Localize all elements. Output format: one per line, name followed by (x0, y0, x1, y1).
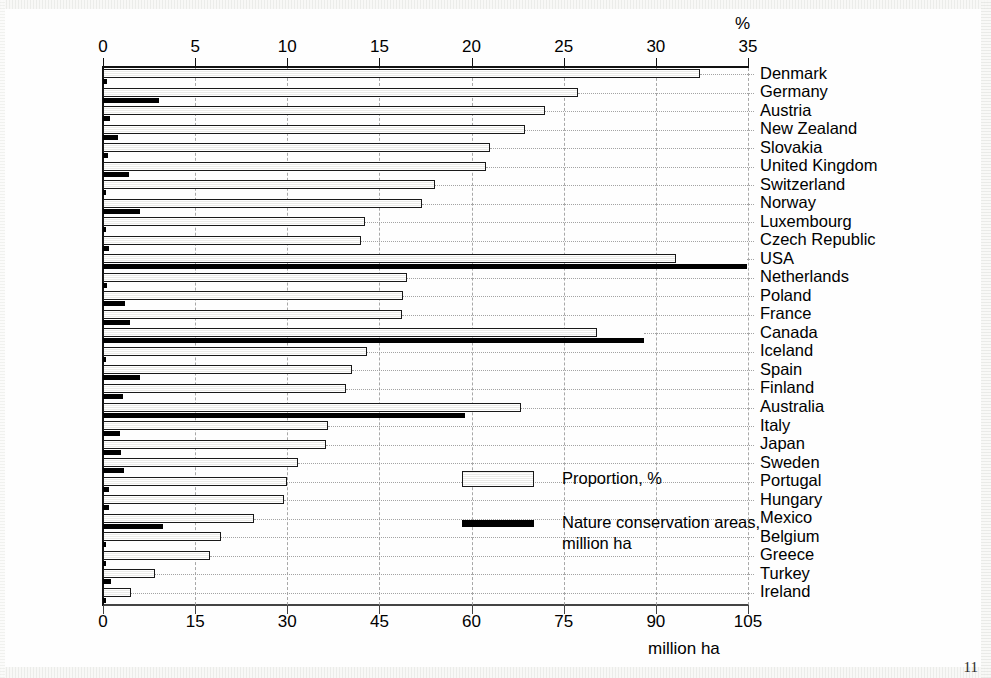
leader-line (328, 426, 754, 427)
bar-proportion (103, 569, 155, 578)
bar-proportion (103, 458, 298, 467)
top-axis-tick-label: 20 (442, 37, 502, 57)
bar-row (103, 384, 748, 401)
bar-proportion (103, 347, 367, 356)
top-axis-tick-label: 35 (718, 37, 778, 57)
bar-nature-area (103, 579, 111, 584)
bar-nature-area (103, 542, 106, 547)
top-axis-tick (564, 58, 565, 67)
leader-line (486, 167, 754, 168)
bottom-axis-tick-label: 15 (165, 612, 225, 632)
top-axis-tick (103, 58, 104, 67)
leader-line (422, 204, 754, 205)
country-label-poland: Poland (760, 286, 811, 305)
bottom-axis-tick-label: 105 (718, 612, 778, 632)
country-label-france: France (760, 304, 811, 323)
leader-line (525, 130, 754, 131)
country-label-japan: Japan (760, 434, 805, 453)
country-label-finland: Finland (760, 378, 814, 397)
bar-row (103, 440, 748, 457)
bar-nature-area (103, 79, 107, 84)
bar-proportion (103, 495, 284, 504)
bar-row (103, 180, 748, 197)
bar-proportion (103, 180, 435, 189)
top-axis-unit-label: % (735, 14, 750, 34)
bar-nature-area (103, 264, 747, 269)
bar-proportion (103, 291, 403, 300)
bar-nature-area (103, 190, 106, 195)
leader-line (521, 408, 754, 409)
bar-row (103, 217, 748, 234)
leader-line (352, 370, 754, 371)
bar-nature-area (103, 598, 106, 603)
bar-row (103, 162, 748, 179)
bar-row (103, 291, 748, 308)
bar-nature-area (103, 394, 123, 399)
bottom-axis-unit-label: million ha (648, 639, 720, 659)
country-label-slovakia: Slovakia (760, 138, 822, 157)
bar-nature-area (103, 116, 110, 121)
bar-proportion (103, 328, 597, 337)
country-label-germany: Germany (760, 82, 828, 101)
bar-row (103, 254, 748, 271)
leader-line (578, 93, 754, 94)
leader-line (644, 333, 754, 334)
country-label-new-zealand: New Zealand (760, 119, 857, 138)
bar-proportion (103, 403, 521, 412)
country-label-spain: Spain (760, 360, 802, 379)
top-axis-tick-label: 25 (534, 37, 594, 57)
top-axis-tick (472, 58, 473, 67)
bar-nature-area (103, 524, 163, 529)
bottom-axis-tick-label: 75 (534, 612, 594, 632)
bar-row (103, 88, 748, 105)
bar-nature-area (103, 98, 159, 103)
country-label-denmark: Denmark (760, 64, 827, 83)
bar-proportion (103, 69, 700, 78)
bar-proportion (103, 143, 490, 152)
bar-nature-area (103, 227, 106, 232)
bar-proportion (103, 532, 221, 541)
leader-line (435, 185, 754, 186)
leader-line (155, 574, 754, 575)
bar-nature-area (103, 375, 140, 380)
leader-line (210, 556, 754, 557)
bar-nature-area (103, 468, 124, 473)
leader-line (700, 74, 754, 75)
bar-row (103, 365, 748, 382)
bar-nature-area (103, 209, 140, 214)
country-label-norway: Norway (760, 193, 816, 212)
country-label-netherlands: Netherlands (760, 267, 849, 286)
country-label-portugal: Portugal (760, 471, 821, 490)
leader-line (490, 148, 754, 149)
bar-proportion (103, 365, 352, 374)
country-label-united-kingdom: United Kingdom (760, 156, 877, 175)
country-label-mexico: Mexico (760, 508, 812, 527)
bar-proportion (103, 199, 422, 208)
bar-proportion (103, 384, 346, 393)
country-label-canada: Canada (760, 323, 818, 342)
top-axis-tick-label: 0 (73, 37, 133, 57)
bar-nature-area (103, 413, 465, 418)
country-label-australia: Australia (760, 397, 824, 416)
bar-proportion (103, 106, 545, 115)
country-label-greece: Greece (760, 545, 814, 564)
bar-proportion (103, 162, 486, 171)
bar-nature-area (103, 357, 106, 362)
bar-row (103, 143, 748, 160)
top-axis-tick (195, 58, 196, 67)
bottom-axis-tick-label: 30 (257, 612, 317, 632)
bar-row (103, 421, 748, 438)
top-axis-tick-label: 5 (165, 37, 225, 57)
legend-swatch-proportion-icon (462, 471, 534, 487)
country-label-turkey: Turkey (760, 564, 810, 583)
bar-row (103, 199, 748, 216)
bar-proportion (103, 477, 287, 486)
bar-proportion (103, 514, 254, 523)
bar-proportion (103, 421, 328, 430)
bar-nature-area (103, 431, 120, 436)
country-label-belgium: Belgium (760, 527, 820, 546)
leader-line (361, 241, 754, 242)
top-axis-tick (656, 58, 657, 67)
bar-proportion (103, 125, 525, 134)
bottom-axis-tick-label: 45 (349, 612, 409, 632)
